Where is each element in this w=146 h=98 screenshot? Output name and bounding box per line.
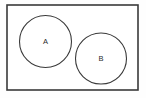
venn-diagram-svg: A B (0, 0, 146, 98)
set-label-a: A (43, 37, 48, 46)
venn-diagram-canvas: A B (0, 0, 146, 98)
set-label-b: B (98, 54, 103, 63)
